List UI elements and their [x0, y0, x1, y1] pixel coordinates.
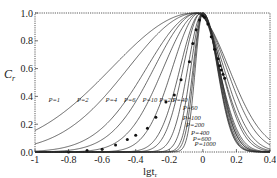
x-tick-label: 0.4 — [264, 154, 276, 165]
data-point — [191, 42, 194, 45]
y-axis-label: Cr — [4, 67, 16, 83]
x-tick-label: -0.4 — [128, 154, 144, 165]
curve-label: P=60 — [182, 104, 199, 111]
x-tick-label: -0.8 — [61, 154, 77, 165]
data-point — [195, 28, 198, 31]
y-tick-label: 0.2 — [21, 119, 34, 130]
data-point — [188, 60, 191, 63]
y-tick-label: 0.4 — [21, 91, 34, 102]
data-point — [206, 23, 209, 26]
x-tick-label: 0 — [200, 154, 205, 165]
data-point — [203, 16, 206, 19]
curve-labels: P=1P=2P=4P=6P=10P=20P=40P=60P=100P=200P=… — [47, 96, 216, 147]
data-point — [114, 144, 117, 147]
x-tick-label: -0.6 — [94, 154, 110, 165]
data-point — [198, 18, 201, 21]
data-point — [213, 48, 216, 51]
data-point — [218, 64, 221, 67]
x-tick-label: -0.2 — [161, 154, 177, 165]
curve-label: P=200 — [185, 121, 205, 128]
y-tick-label: 0.8 — [21, 35, 34, 46]
curve-label: P=40 — [172, 96, 189, 103]
curve-label: P=6 — [123, 96, 136, 103]
curve-label: P=2 — [76, 96, 89, 103]
y-tick-label: 1.0 — [21, 8, 34, 19]
data-point — [146, 127, 149, 130]
curve-label: P=1 — [47, 96, 60, 103]
curve-label: P=10 — [141, 96, 158, 103]
data-point — [216, 57, 219, 60]
data-point — [154, 116, 157, 119]
axis-ticks: -1-0.8-0.6-0.4-0.200.20.40.00.20.40.60.8… — [21, 8, 277, 166]
curves-group — [35, 13, 270, 152]
y-tick-label: 0.0 — [21, 147, 34, 158]
y-tick-label: 0.6 — [21, 63, 34, 74]
data-point — [134, 134, 137, 137]
x-axis-label: lgtr — [143, 165, 158, 178]
chart: -1-0.8-0.6-0.4-0.200.20.40.00.20.40.60.8… — [0, 0, 276, 178]
x-tick-label: 0.2 — [230, 154, 243, 165]
curve-label: P=1000 — [193, 140, 216, 147]
data-point — [180, 78, 183, 81]
data-point — [223, 77, 226, 80]
data-point — [210, 35, 213, 38]
data-point — [222, 73, 225, 76]
data-point — [126, 138, 129, 141]
curve-label: P=4 — [105, 96, 118, 103]
curve-label: P=100 — [182, 114, 202, 121]
data-point — [220, 68, 223, 71]
